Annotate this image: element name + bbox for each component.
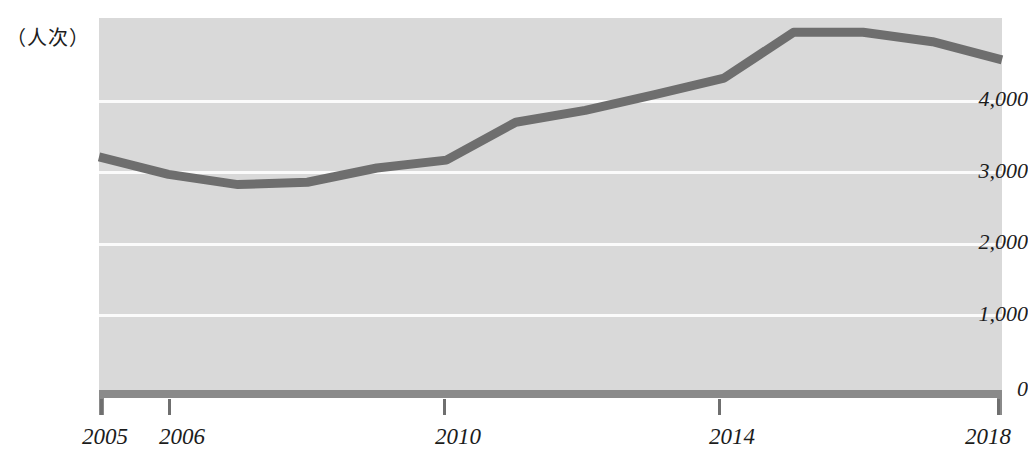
x-tick-label-2005: 2005 bbox=[82, 424, 128, 450]
x-tick-mark-2018 bbox=[997, 399, 1000, 415]
x-tick-mark-2005 bbox=[100, 399, 103, 415]
x-tick-mark-2010 bbox=[443, 399, 446, 415]
y-tick-label-4000: 4,000 bbox=[940, 86, 1028, 112]
x-tick-label-2010: 2010 bbox=[435, 424, 481, 450]
x-tick-mark-2014 bbox=[718, 399, 721, 415]
x-tick-label-2006: 2006 bbox=[159, 424, 205, 450]
x-tick-label-2018: 2018 bbox=[965, 424, 1011, 450]
y-tick-label-1000: 1,000 bbox=[940, 301, 1028, 327]
line-chart-figure: （人次） 4,000 3,000 2,000 1,000 0 2005 2006… bbox=[0, 0, 1028, 470]
x-axis-baseline bbox=[99, 390, 1002, 398]
data-series-line bbox=[99, 18, 1002, 397]
y-tick-label-3000: 3,000 bbox=[940, 158, 1028, 184]
y-tick-label-0: 0 bbox=[940, 376, 1028, 402]
x-tick-mark-2006 bbox=[168, 399, 171, 415]
y-tick-label-2000: 2,000 bbox=[940, 229, 1028, 255]
plot-area bbox=[99, 18, 1002, 397]
x-tick-label-2014: 2014 bbox=[709, 424, 755, 450]
y-axis-unit-caption: （人次） bbox=[6, 22, 90, 51]
